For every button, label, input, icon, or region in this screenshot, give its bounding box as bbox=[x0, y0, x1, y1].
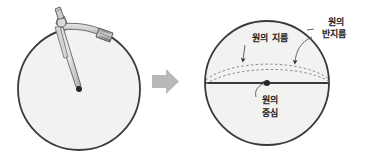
right-panel-group: 원의 지름 원의 반지름 원의 중심 bbox=[205, 16, 346, 145]
compass-top-spike bbox=[55, 7, 64, 20]
label-radius-text-line1: 원의 bbox=[328, 16, 344, 27]
label-center-text-line2: 중심 bbox=[262, 107, 278, 118]
circle-concept-diagram: 원의 지름 원의 반지름 원의 중심 bbox=[0, 0, 365, 162]
left-center-dot bbox=[76, 86, 82, 92]
right-arrow-icon bbox=[152, 69, 179, 94]
left-panel-group bbox=[18, 7, 140, 150]
right-center-dot bbox=[264, 80, 270, 86]
label-radius-text-line2: 반지름 bbox=[322, 28, 347, 39]
process-arrow-group bbox=[152, 69, 179, 94]
leader-radius-tick bbox=[307, 29, 314, 30]
label-diameter-text: 원의 지름 bbox=[252, 32, 288, 43]
diagram-canvas: 원의 지름 원의 반지름 원의 중심 bbox=[0, 0, 365, 162]
label-center-text-line1: 원의 bbox=[262, 94, 278, 105]
